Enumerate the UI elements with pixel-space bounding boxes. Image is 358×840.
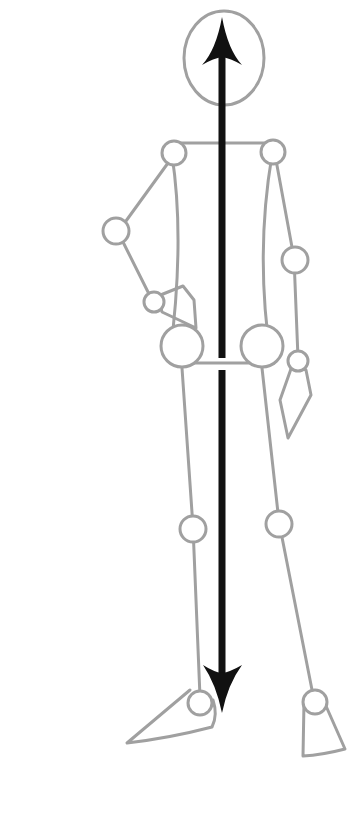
left-elbow-joint [103, 218, 129, 244]
right-hip-joint [241, 325, 283, 367]
left-knee-joint [180, 516, 206, 542]
right-elbow-joint [282, 247, 308, 273]
left-ankle-joint [188, 691, 212, 715]
right-shoulder-joint [261, 140, 285, 164]
left-thigh [182, 368, 193, 527]
right-ankle-joint [303, 690, 327, 714]
left-wrist-joint [144, 292, 164, 312]
right-hand [280, 366, 311, 438]
right-wrist-joint [288, 351, 308, 371]
left-shoulder-joint [162, 141, 186, 165]
right-knee-joint [266, 511, 292, 537]
left-hip-joint [161, 325, 203, 367]
left-shin [193, 527, 200, 697]
right-shin [279, 522, 314, 700]
right-thigh [262, 368, 279, 522]
right-upper-arm [276, 160, 294, 258]
mannequin-figure-drawing [0, 0, 358, 840]
